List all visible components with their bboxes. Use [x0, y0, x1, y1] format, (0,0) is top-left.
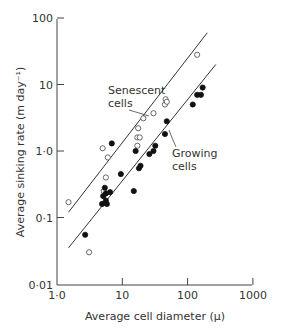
- senescent-point: [137, 135, 142, 140]
- growing-point: [198, 92, 203, 97]
- growing-point: [190, 102, 195, 107]
- senescent-point: [151, 111, 156, 116]
- growing-point: [151, 148, 156, 153]
- growing-point: [104, 201, 109, 206]
- senescent-pointer: [129, 110, 149, 116]
- y-tick-label: 100: [32, 12, 53, 25]
- senescent-point: [141, 116, 146, 121]
- growing-point: [138, 163, 143, 168]
- x-tick-label: 100: [177, 289, 198, 302]
- senescent-fit-line: [68, 33, 207, 212]
- ticks: 1·01010010000·010·11·010100: [29, 12, 267, 302]
- senescent-label-line2: cells: [108, 97, 133, 110]
- growing-pointer: [169, 130, 176, 147]
- growing-point: [153, 143, 158, 148]
- growing-point: [107, 190, 112, 195]
- senescent-point: [105, 155, 110, 160]
- growing-label-line2: cells: [172, 160, 197, 173]
- fit-lines: [68, 33, 215, 248]
- y-tick-label: 10: [39, 79, 53, 92]
- senescent-point: [164, 99, 169, 104]
- y-tick-label: 0·1: [36, 212, 54, 225]
- x-axis-label: Average cell diameter (μ): [85, 310, 225, 323]
- senescent-point: [103, 175, 108, 180]
- growing-point: [164, 119, 169, 124]
- senescent-point: [100, 146, 105, 151]
- x-tick-label: 1000: [239, 289, 267, 302]
- senescent-point: [135, 143, 140, 148]
- senescent-point: [195, 52, 200, 57]
- growing-point: [131, 188, 136, 193]
- growing-point: [109, 141, 114, 146]
- growing-point: [133, 148, 138, 153]
- y-tick-label: 1·0: [36, 145, 54, 158]
- growing-point: [162, 131, 167, 136]
- y-axis-label: Average sinking rate (m day⁻¹): [14, 67, 27, 237]
- growing-point: [83, 232, 88, 237]
- x-tick-label: 10: [115, 289, 129, 302]
- senescent-point: [136, 126, 141, 131]
- growing-point: [102, 185, 107, 190]
- growing-label-line1: Growing: [172, 147, 218, 160]
- growing-point: [200, 85, 205, 90]
- scatter-chart: 1·01010010000·010·11·010100 Senescent ce…: [0, 0, 281, 332]
- y-tick-label: 0·01: [29, 279, 54, 292]
- senescent-label-line1: Senescent: [108, 84, 166, 97]
- senescent-point: [66, 200, 71, 205]
- growing-point: [118, 171, 123, 176]
- senescent-point: [86, 250, 91, 255]
